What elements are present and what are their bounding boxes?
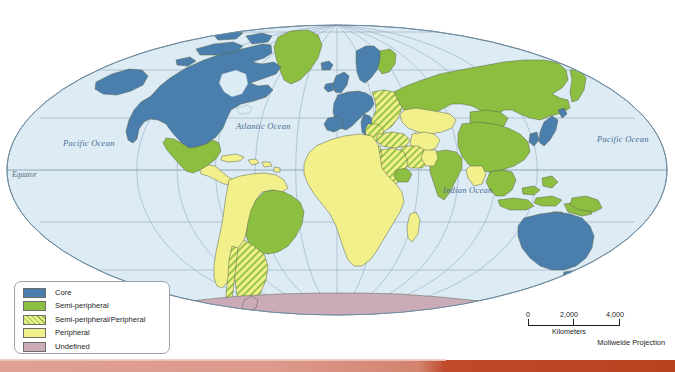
- scale-units-label: Kilometers: [552, 327, 586, 336]
- scale-tick-0: [528, 319, 529, 326]
- scale-bar: 0 2,000 4,000 Kilometers: [528, 310, 620, 336]
- legend-label-core: Core: [55, 289, 71, 297]
- legend-swatch-undefined: [23, 342, 46, 352]
- legend-swatch-core: [23, 288, 46, 298]
- legend-item-undefined: Undefined: [15, 340, 169, 354]
- accent-bar-highlight: [0, 359, 446, 361]
- equator-label: Equator: [12, 170, 37, 179]
- projection-label: Mollweide Projection: [597, 338, 665, 347]
- legend-item-semi-peripheral: Semi-peripheral: [15, 300, 169, 314]
- legend-swatch-peripheral: [23, 328, 46, 338]
- scale-bar-ruler: [528, 319, 620, 326]
- world-map-figure: Pacific Ocean Atlantic Ocean Indian Ocea…: [0, 0, 675, 356]
- scale-tick-1: [573, 319, 574, 326]
- legend-label-semi-peripheral-peripheral: Semi-peripheral/Peripheral: [55, 316, 145, 324]
- scale-bar-line: [528, 325, 620, 326]
- scale-tick-label-1: 2,000: [560, 310, 578, 319]
- accent-bar-gradient: [0, 360, 675, 372]
- legend-label-semi-peripheral: Semi-peripheral: [55, 302, 109, 310]
- scale-tick-label-2: 4,000: [606, 310, 624, 319]
- legend-label-peripheral: Peripheral: [55, 329, 90, 337]
- legend-swatch-semi-peripheral-peripheral: [23, 315, 46, 325]
- legend-item-semi-peripheral-peripheral: Semi-peripheral/Peripheral: [15, 313, 169, 327]
- scale-tick-2: [619, 319, 620, 326]
- region-new-zealand: [603, 254, 624, 284]
- legend-item-core: Core: [15, 286, 169, 300]
- legend-item-peripheral: Peripheral: [15, 327, 169, 341]
- map-page: Pacific Ocean Atlantic Ocean Indian Ocea…: [0, 0, 675, 372]
- scale-tick-label-0: 0: [526, 310, 530, 319]
- bottom-accent-bar: [0, 359, 675, 372]
- legend-swatch-semi-peripheral: [23, 301, 46, 311]
- map-legend: Core Semi-peripheral Semi-peripheral/Per…: [14, 281, 170, 354]
- legend-label-undefined: Undefined: [55, 343, 90, 351]
